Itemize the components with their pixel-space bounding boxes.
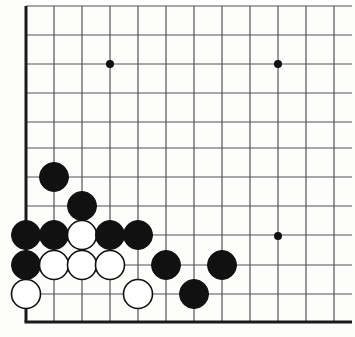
black-stone[interactable] — [180, 280, 209, 309]
star-point-upper-left-icon — [106, 60, 114, 68]
black-stone[interactable] — [96, 221, 125, 250]
white-stone[interactable] — [40, 251, 69, 280]
black-stone[interactable] — [12, 221, 41, 250]
white-stone[interactable] — [96, 251, 125, 280]
go-board-canvas[interactable] — [0, 0, 355, 337]
white-stone[interactable] — [124, 280, 153, 309]
white-stone[interactable] — [68, 221, 97, 250]
black-stone[interactable] — [68, 192, 97, 221]
black-stone[interactable] — [40, 221, 69, 250]
star-point-upper-right-icon — [274, 60, 282, 68]
go-board-diagram — [0, 0, 355, 337]
white-stone[interactable] — [68, 251, 97, 280]
black-stone[interactable] — [208, 251, 237, 280]
black-stone[interactable] — [152, 251, 181, 280]
black-stone[interactable] — [12, 251, 41, 280]
black-stone[interactable] — [40, 163, 69, 192]
black-stone[interactable] — [124, 221, 153, 250]
star-point-lower-right-icon — [274, 232, 282, 240]
white-stone[interactable] — [12, 280, 41, 309]
